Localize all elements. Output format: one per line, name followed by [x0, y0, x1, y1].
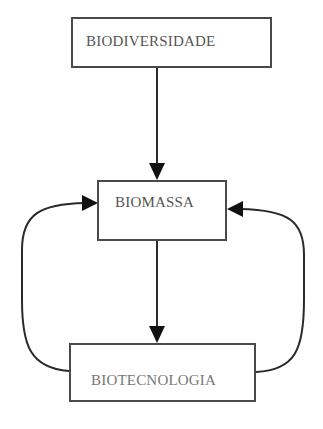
node-label: BIOMASSA	[115, 194, 194, 211]
arrowhead-down-icon	[149, 163, 165, 180]
node-label: BIODIVERSIDADE	[86, 33, 215, 50]
node-label: BIOTECNOLOGIA	[91, 372, 216, 389]
node-biotecnologia: BIOTECNOLOGIA	[69, 343, 256, 402]
arrowhead-left-icon	[227, 201, 243, 217]
arrowhead-right-icon	[82, 195, 98, 211]
node-biomassa: BIOMASSA	[97, 180, 227, 241]
node-biodiversidade: BIODIVERSIDADE	[71, 17, 272, 68]
arrowhead-down-icon	[149, 326, 165, 343]
